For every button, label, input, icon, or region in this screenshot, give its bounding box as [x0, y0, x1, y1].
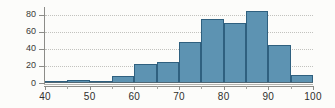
histogram-bar [224, 23, 246, 83]
histogram-bar [134, 64, 156, 83]
y-tick-label: 20 [10, 61, 36, 70]
x-tick-100 [313, 86, 314, 90]
y-tick-40 [39, 49, 44, 50]
x-tick-70 [179, 86, 180, 90]
x-tick-80 [224, 86, 225, 90]
y-axis-line [44, 7, 45, 84]
y-tick-20 [39, 66, 44, 67]
y-tick-80 [39, 15, 44, 16]
x-tick-label: 70 [164, 92, 194, 102]
x-tick-label: 100 [298, 92, 328, 102]
y-tick-label: 60 [10, 27, 36, 36]
histogram-chart: 020406080405060708090100 [0, 0, 335, 108]
x-tick-label: 90 [253, 92, 283, 102]
histogram-bar [246, 11, 268, 83]
y-tick-label: 40 [10, 44, 36, 53]
x-tick-50 [90, 86, 91, 90]
y-tick-label: 80 [10, 10, 36, 19]
histogram-bar [179, 42, 201, 83]
x-minor-tick-65 [157, 86, 158, 89]
x-tick-60 [134, 86, 135, 90]
gridline-80 [45, 15, 313, 16]
x-tick-label: 80 [209, 92, 239, 102]
x-tick-label: 50 [75, 92, 105, 102]
x-tick-label: 60 [119, 92, 149, 102]
baseline-rule [45, 82, 313, 83]
histogram-bar [157, 62, 179, 83]
x-minor-tick-75 [201, 86, 202, 89]
x-minor-tick-55 [112, 86, 113, 89]
y-tick-60 [39, 32, 44, 33]
x-minor-tick-45 [67, 86, 68, 89]
plot-area [45, 8, 313, 83]
histogram-bar [268, 45, 290, 83]
histogram-bar [201, 19, 223, 83]
x-tick-40 [45, 86, 46, 90]
x-minor-tick-85 [246, 86, 247, 89]
x-tick-90 [268, 86, 269, 90]
y-tick-label: 0 [10, 79, 36, 88]
x-minor-tick-95 [291, 86, 292, 89]
x-tick-label: 40 [30, 92, 60, 102]
gridline-60 [45, 32, 313, 33]
x-axis-line-secondary [44, 84, 313, 85]
y-tick-0 [39, 83, 44, 84]
